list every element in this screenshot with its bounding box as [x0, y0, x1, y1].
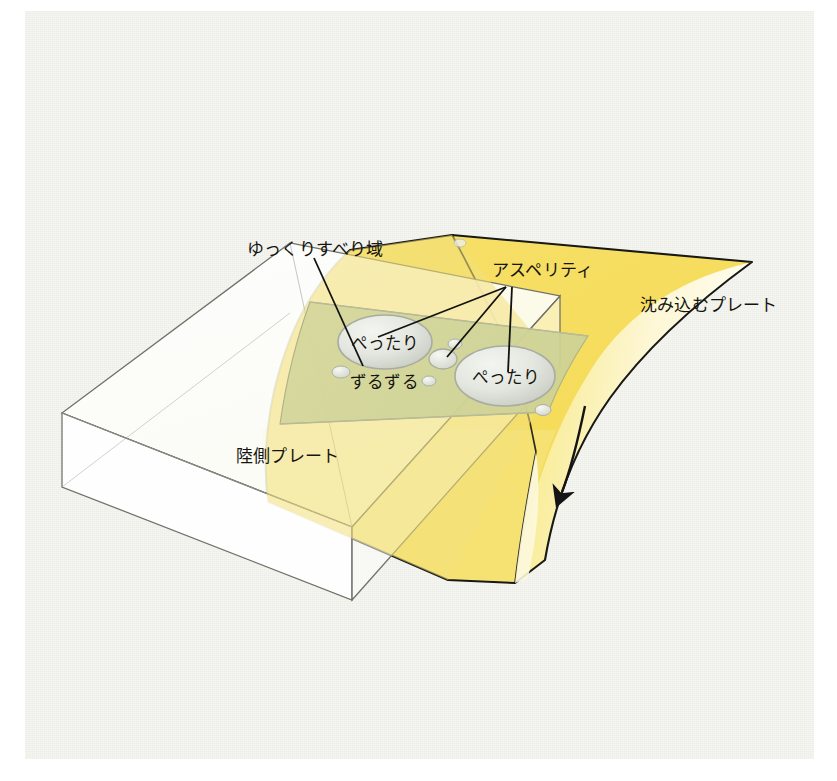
- asperity-dot-5: [454, 239, 466, 247]
- label-subducting-plate: 沈み込むプレート: [640, 295, 778, 315]
- label-stuck-right: ぺったり: [472, 368, 541, 387]
- figure-root: ゆっくりすべり域 アスペリティ 沈み込むプレート 陸側プレート ぺったり ぺった…: [0, 0, 837, 781]
- asperity-dot-4: [535, 405, 551, 416]
- label-asperity: アスペリティ: [492, 260, 593, 280]
- label-slow-slip-zone: ゆっくりすべり域: [247, 239, 384, 259]
- label-land-plate: 陸側プレート: [236, 446, 339, 466]
- subduction-zone-diagram: ゆっくりすべり域 アスペリティ 沈み込むプレート 陸側プレート ぺったり ぺった…: [0, 0, 837, 781]
- asperity-dot-2: [422, 376, 436, 386]
- asperity-small-center: [429, 349, 457, 369]
- asperity-dot-1: [332, 366, 350, 378]
- label-slipping: ずるずる: [350, 373, 419, 392]
- label-stuck-left: ぺったり: [351, 334, 420, 353]
